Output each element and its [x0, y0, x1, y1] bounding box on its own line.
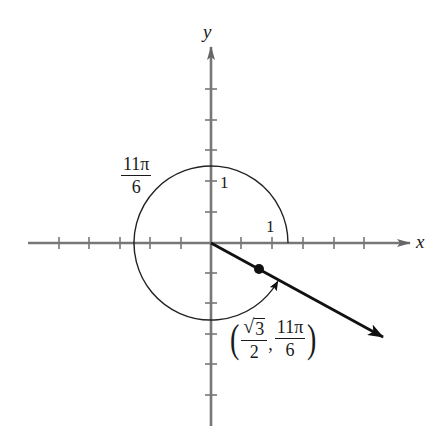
open-paren: (	[230, 319, 239, 359]
theta-fraction: 11π 6	[275, 318, 305, 359]
theta-numerator: 11π	[275, 318, 305, 339]
polar-point	[254, 264, 264, 274]
sqrt-symbol: √ 3	[243, 316, 265, 338]
x-axis-label: x	[416, 232, 424, 251]
polar-diagram	[0, 0, 444, 433]
angle-label: 11π 6	[121, 155, 151, 196]
angle-numerator: 11π	[121, 155, 151, 176]
y-unit-label: 1	[220, 174, 229, 191]
x-unit-label: 1	[266, 218, 275, 235]
radicand: 3	[254, 318, 265, 338]
radical-sign: √	[243, 316, 254, 336]
r-numerator: √ 3	[241, 316, 267, 341]
angle-denominator: 6	[132, 176, 141, 196]
close-paren: )	[307, 319, 316, 359]
point-label: ( √ 3 2 , 11π 6 )	[228, 316, 319, 361]
y-axis-label: y	[203, 22, 211, 41]
y-axis	[205, 47, 217, 426]
theta-denominator: 6	[286, 339, 295, 359]
coordinate-separator: ,	[268, 334, 273, 355]
r-denominator: 2	[250, 341, 259, 361]
r-fraction: √ 3 2	[241, 316, 267, 361]
